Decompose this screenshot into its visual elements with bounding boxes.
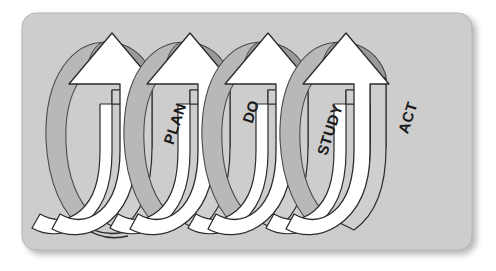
pdsa-cycle-figure: PLAN DO STUDY ACT bbox=[0, 0, 496, 271]
pdsa-cycle-svg: PLAN DO STUDY ACT bbox=[0, 0, 496, 271]
